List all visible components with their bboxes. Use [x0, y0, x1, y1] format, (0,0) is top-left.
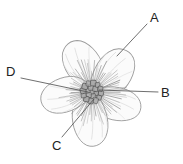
label-a: A: [150, 11, 159, 24]
leader-line-a: [117, 24, 147, 56]
label-b: B: [161, 86, 170, 99]
label-d: D: [6, 65, 15, 78]
label-c: C: [52, 139, 61, 152]
flower-diagram: A B C D: [0, 0, 183, 164]
